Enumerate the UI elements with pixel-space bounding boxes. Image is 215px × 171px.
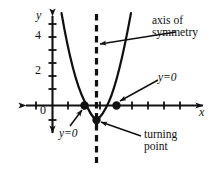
axis-of-symmetry-label-line2: symmetry	[152, 26, 198, 38]
quadratic-graph-figure: y x 4 2 0 axis ofsymmetry y=0 y=0 turnin…	[0, 0, 215, 171]
turning-point-marker	[92, 116, 100, 124]
root-right-label: y=0	[158, 71, 177, 83]
root-left-leader-arrow	[70, 110, 82, 126]
axis-of-symmetry-label-line1: axis of	[152, 14, 183, 26]
turning-point-leader-arrow	[101, 122, 141, 136]
axis-of-symmetry-label: axis ofsymmetry	[152, 14, 198, 38]
y-tick-label-2: 2	[35, 64, 41, 77]
root-left-point	[80, 101, 88, 109]
y-tick-label-4: 4	[35, 29, 41, 42]
root-left-label: y=0	[59, 127, 78, 139]
root-right-point	[112, 101, 120, 109]
origin-label: 0	[40, 104, 46, 117]
turning-point-label-line1: turning	[144, 128, 177, 140]
x-axis-label: x	[199, 106, 204, 119]
turning-point-label-line2: point	[144, 140, 168, 152]
y-axis	[49, 16, 57, 133]
y-axis-label: y	[36, 9, 41, 22]
root-right-leader-arrow	[120, 80, 158, 101]
turning-point-label: turningpoint	[144, 128, 177, 152]
